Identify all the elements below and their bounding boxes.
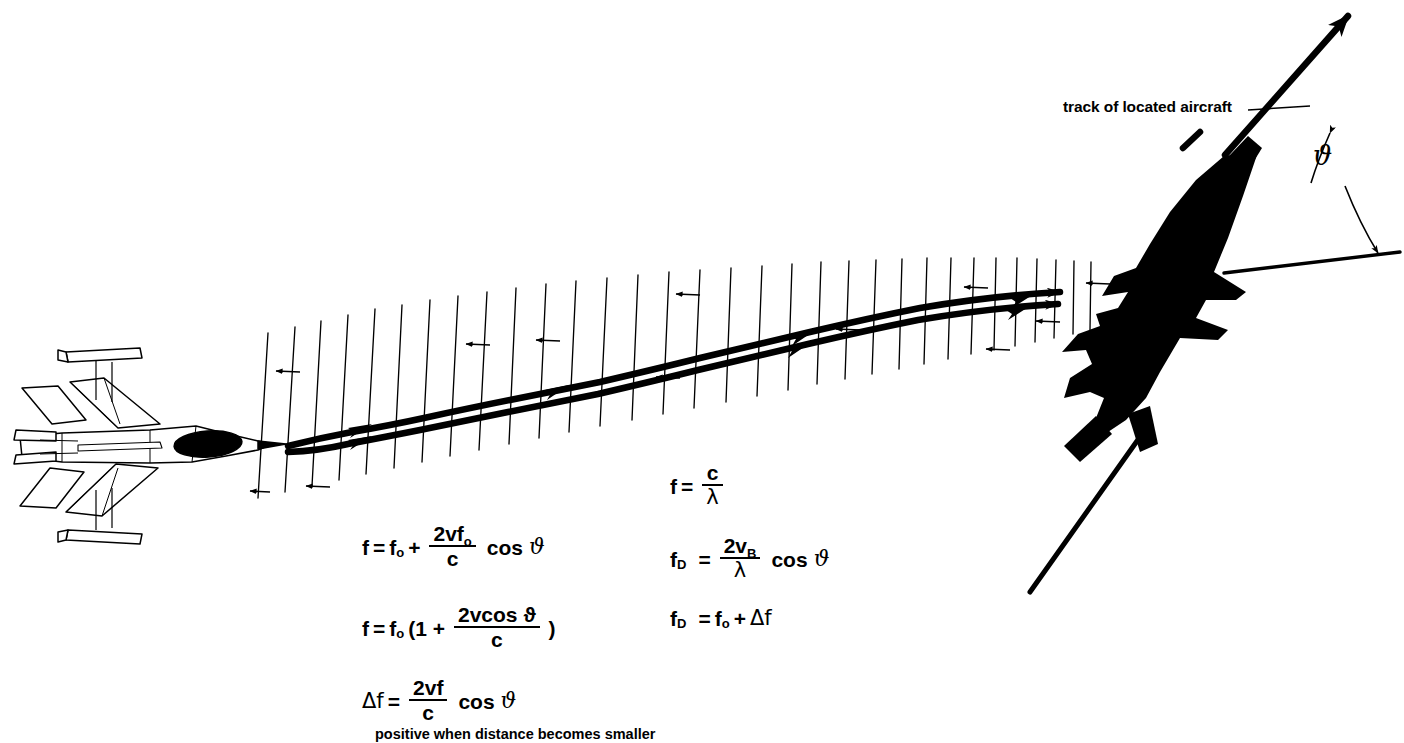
formula-equals: = — [686, 608, 714, 629]
doppler-sign-convention-caption: positive when distance becomes smaller — [375, 726, 655, 742]
cosine-operator: cos — [452, 691, 494, 712]
target-aircraft-silhouette — [1062, 136, 1262, 462]
fraction-denominator: λ — [702, 484, 722, 508]
formula-equals: = — [384, 691, 404, 712]
fraction-numerator: 2vB — [720, 535, 761, 557]
formula-term: f — [389, 618, 396, 639]
fraction-denominator: c — [454, 626, 540, 650]
formula-lhs: f — [362, 618, 369, 639]
formula-doppler-shifted-frequency: f = fo + 2vfo c cos ϑ — [362, 524, 545, 570]
formula-term: f — [389, 537, 396, 558]
fraction-denominator: c — [409, 699, 447, 723]
fraction: 2vcos ϑ c — [454, 604, 540, 650]
angle-symbol: ϑ — [808, 548, 830, 570]
formula-equals: = — [369, 618, 389, 639]
track-direction-arrow — [1183, 16, 1348, 155]
formula-lhs-subscript: D — [677, 617, 686, 630]
fraction-numerator: 2vf — [409, 677, 447, 699]
formula-equals: = — [369, 537, 389, 558]
formula-term-subscript: o — [722, 617, 730, 630]
horizontal-reference-line — [1224, 252, 1400, 273]
fraction: c λ — [702, 462, 722, 508]
formula-lhs: f — [670, 549, 677, 570]
radar-beam-rays — [288, 292, 1060, 452]
wavefront-direction-arrows — [250, 283, 1110, 492]
fraction-numerator: 2vfo — [429, 523, 475, 545]
diagram-canvas: track of located aircraft ϑ f = fo + 2vf… — [0, 0, 1404, 743]
fraction: 2vf c — [409, 677, 447, 723]
formula-doppler-frequency-sum: fD = fo + Δf — [670, 608, 772, 629]
formula-operator: + — [404, 537, 424, 558]
formula-lhs: f — [670, 476, 677, 497]
numerator-subscript: B — [747, 546, 756, 561]
formula-equals: = — [677, 476, 697, 497]
formula-equals: = — [686, 549, 714, 570]
fraction: 2vfo c — [429, 523, 475, 569]
formula-doppler-frequency-wavelength: fD = 2vB λ cos ϑ — [670, 536, 829, 582]
fraction-numerator: 2vcos ϑ — [454, 604, 540, 626]
formula-doppler-factored-frequency: f = fo (1 + 2vcos ϑ c ) — [362, 605, 560, 651]
formula-lhs: Δf — [362, 691, 384, 712]
fraction-numerator: c — [703, 462, 723, 484]
angle-symbol: ϑ — [523, 536, 545, 558]
cosine-operator: cos — [481, 537, 523, 558]
formula-term: f — [715, 608, 722, 629]
paren-close: ) — [545, 618, 560, 639]
track-of-located-aircraft-label: track of located aircraft — [1063, 98, 1232, 116]
formula-term-subscript: o — [396, 546, 404, 559]
radar-aircraft-outline — [14, 348, 286, 544]
formula-frequency-wavelength: f = c λ — [670, 463, 728, 509]
formula-lhs: f — [362, 537, 369, 558]
angle-symbol: ϑ — [495, 690, 517, 712]
track-line-lower-segment — [1030, 434, 1142, 592]
formula-lhs-subscript: D — [677, 558, 686, 571]
cosine-operator: cos — [765, 549, 807, 570]
fraction: 2vB λ — [720, 535, 761, 581]
numerator-subscript: o — [464, 534, 472, 549]
track-label-leader-line — [1248, 106, 1310, 110]
formula-frequency-shift: Δf = 2vf c cos ϑ — [362, 678, 516, 724]
formula-delta-term: Δf — [750, 608, 772, 629]
formula-operator: + — [730, 608, 750, 629]
angle-theta-label: ϑ — [1313, 140, 1332, 171]
paren-open: (1 + — [404, 618, 449, 639]
formula-term-subscript: o — [396, 627, 404, 640]
formula-lhs: f — [670, 608, 677, 629]
